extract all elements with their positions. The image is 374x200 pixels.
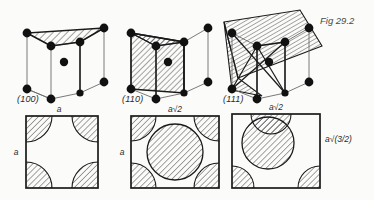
plane-label-100: (100)	[17, 94, 39, 104]
section-110-centre-circle	[147, 124, 203, 180]
section-100-left-label: a	[14, 147, 19, 157]
section-111-top-label: a√2	[269, 102, 283, 112]
plane-label-111: (111)	[223, 94, 244, 104]
section-111-right-label: a√(3/2)	[325, 134, 352, 144]
body-centre-atom	[164, 58, 172, 66]
body-centre-atom	[265, 58, 273, 66]
section-100-top-label: a	[57, 104, 62, 114]
figure-canvas: (100)	[0, 0, 374, 200]
body-centre-atom	[60, 58, 68, 66]
section-110-top-label: a√2	[168, 104, 182, 114]
plane-label-110: (110)	[122, 94, 143, 104]
section-111-centre-circle	[242, 117, 294, 169]
figure-caption: Fig 29.2	[320, 15, 355, 26]
section-110-left-label: a	[120, 147, 125, 157]
